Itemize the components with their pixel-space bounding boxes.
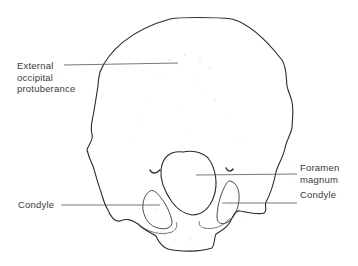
left-condyle-outline xyxy=(143,191,172,229)
label-line: protuberance xyxy=(17,83,75,95)
label-line: Condyle xyxy=(300,189,336,201)
label-line: External xyxy=(17,60,75,72)
skull-outline xyxy=(87,18,293,252)
skull-illustration xyxy=(0,0,358,266)
foramen-magnum-outline xyxy=(161,151,216,215)
label-line: Condyle xyxy=(18,199,54,211)
label-line: Foramen xyxy=(300,162,339,174)
label-line: magnum xyxy=(300,174,339,186)
label-condyle-right: Condyle xyxy=(300,189,336,201)
left-hook-mark xyxy=(150,170,160,173)
skull-diagram: External occipital protuberance Foramen … xyxy=(0,0,358,266)
bone-texture-stipple xyxy=(130,54,241,246)
label-external-occipital-protuberance: External occipital protuberance xyxy=(17,60,75,95)
label-foramen-magnum: Foramen magnum xyxy=(300,162,339,185)
right-condyle-outline xyxy=(217,181,239,224)
label-line: occipital xyxy=(17,72,75,84)
leader-line-eop xyxy=(64,63,178,65)
label-condyle-left: Condyle xyxy=(18,199,54,211)
inner-contour-right xyxy=(199,218,230,229)
leader-line-foramen-magnum xyxy=(196,174,297,175)
right-hook-mark xyxy=(226,168,233,171)
